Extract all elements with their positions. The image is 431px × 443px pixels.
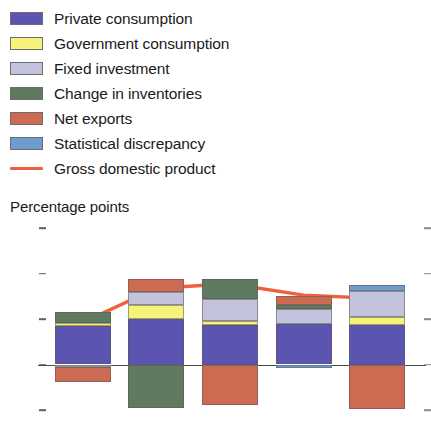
- bar-segment-net-exports: [128, 279, 184, 292]
- legend-item-label: Government consumption: [54, 35, 229, 53]
- bar-segment-private-consumption: [202, 325, 258, 365]
- bar-segment-private-consumption: [128, 319, 184, 365]
- y-axis-tick-mark-right: [424, 273, 431, 275]
- bar-segment-private-consumption: [276, 324, 332, 365]
- y-axis-tick-mark: [39, 409, 46, 411]
- y-axis-tick-mark: [39, 273, 46, 275]
- bar-segment-change-in-inventories: [276, 305, 332, 308]
- bar-segment-fixed-investment: [202, 299, 258, 321]
- legend-item-label: Fixed investment: [54, 60, 170, 78]
- bar-segment-fixed-investment: [349, 291, 405, 317]
- bar-group-2013: [202, 228, 258, 410]
- y-axis-title: Percentage points: [10, 198, 129, 215]
- y-axis-tick-mark: [39, 364, 46, 366]
- legend-item-fixed-investment: Fixed investment: [0, 56, 430, 81]
- chart-plot-inner: [46, 228, 414, 410]
- chart-plot-area: [0, 228, 430, 443]
- bar-segment-net-exports: [202, 365, 258, 406]
- bar-group-2011: [55, 228, 111, 410]
- bar-group-2015: [349, 228, 405, 410]
- swatch-net-exports: [10, 112, 43, 125]
- bar-group-2014: [276, 228, 332, 410]
- legend-item-label: Change in inventories: [54, 85, 202, 103]
- bar-segment-fixed-investment: [128, 292, 184, 306]
- swatch-private-consumption: [10, 12, 43, 25]
- legend-item-private-consumption: Private consumption: [0, 6, 430, 31]
- bar-group-2012: [128, 228, 184, 410]
- bar-segment-government-consumption: [55, 323, 111, 326]
- bar-segment-private-consumption: [349, 325, 405, 365]
- chart-legend: Private consumptionGovernment consumptio…: [0, 0, 430, 196]
- swatch-change-in-inventories: [10, 87, 43, 100]
- bar-segment-fixed-investment: [276, 309, 332, 324]
- legend-item-gross-domestic-product: Gross domestic product: [0, 156, 430, 181]
- bar-segment-statistical-discrepancy: [349, 285, 405, 291]
- swatch-fixed-investment: [10, 62, 43, 75]
- legend-item-label: Gross domestic product: [54, 160, 215, 178]
- legend-item-label: Private consumption: [54, 10, 193, 28]
- bar-segment-net-exports: [276, 296, 332, 305]
- bar-segment-government-consumption: [128, 305, 184, 319]
- swatch-government-consumption: [10, 37, 43, 50]
- bar-segment-net-exports: [349, 365, 405, 409]
- bar-segment-change-in-inventories: [128, 365, 184, 408]
- bar-segment-net-exports: [55, 367, 111, 382]
- bar-segment-government-consumption: [349, 317, 405, 325]
- y-axis-tick-mark-right: [424, 364, 431, 366]
- swatch-statistical-discrepancy: [10, 137, 43, 150]
- y-axis-tick-mark: [39, 318, 46, 320]
- bar-segment-government-consumption: [202, 321, 258, 325]
- y-axis-tick-mark-right: [424, 227, 431, 229]
- legend-item-label: Statistical discrepancy: [54, 135, 205, 153]
- legend-item-change-in-inventories: Change in inventories: [0, 81, 430, 106]
- legend-item-government-consumption: Government consumption: [0, 31, 430, 56]
- bar-segment-change-in-inventories: [55, 312, 111, 323]
- bar-segment-private-consumption: [55, 326, 111, 365]
- bar-segment-change-in-inventories: [202, 279, 258, 299]
- bar-segment-statistical-discrepancy: [276, 365, 332, 368]
- y-axis-tick-mark: [39, 227, 46, 229]
- line-gross-domestic-product: [10, 162, 43, 175]
- y-axis-tick-mark-right: [424, 409, 431, 411]
- y-axis-tick-mark-right: [424, 318, 431, 320]
- legend-item-statistical-discrepancy: Statistical discrepancy: [0, 131, 430, 156]
- legend-item-net-exports: Net exports: [0, 106, 430, 131]
- legend-item-label: Net exports: [54, 110, 132, 128]
